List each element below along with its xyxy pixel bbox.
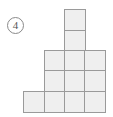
unit-square: [64, 9, 86, 31]
empty-grid-slot: [44, 10, 64, 30]
unit-square: [64, 50, 86, 72]
item-number-label: 4: [13, 20, 19, 31]
empty-grid-slot: [24, 71, 44, 91]
unit-square: [84, 91, 106, 113]
unit-square: [23, 91, 45, 113]
empty-grid-slot: [24, 51, 44, 71]
empty-grid-slot: [24, 30, 44, 50]
unit-square: [84, 50, 106, 72]
unit-square: [44, 91, 66, 113]
unit-square-shape-grid: [24, 10, 105, 112]
unit-square: [64, 91, 86, 113]
unit-square: [84, 70, 106, 92]
figure-container: 4: [0, 0, 113, 117]
unit-square: [64, 70, 86, 92]
unit-square: [44, 50, 66, 72]
unit-square: [44, 70, 66, 92]
empty-grid-slot: [85, 10, 105, 30]
empty-grid-slot: [44, 30, 64, 50]
unit-square: [64, 30, 86, 52]
item-number-marker: 4: [7, 17, 24, 34]
empty-grid-slot: [24, 10, 44, 30]
empty-grid-slot: [85, 30, 105, 50]
